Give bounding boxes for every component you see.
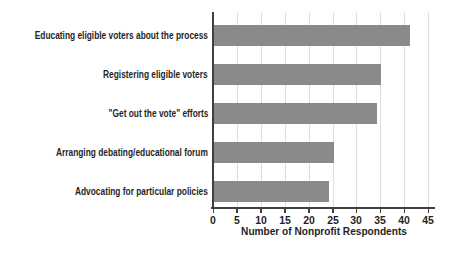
tick-mark — [428, 209, 430, 213]
category-label: Educating eligible voters about the proc… — [35, 28, 208, 42]
tick-mark — [332, 209, 334, 213]
tick-mark — [213, 209, 215, 213]
tick-mark — [356, 209, 358, 213]
bar — [214, 103, 377, 124]
bar — [214, 64, 381, 85]
bar-chart: Educating eligible voters about the proc… — [0, 0, 449, 256]
tick-mark — [236, 209, 238, 213]
tick-label: 0 — [203, 214, 224, 226]
tick-mark — [260, 209, 262, 213]
tick-mark — [284, 209, 286, 213]
tick-mark — [308, 209, 310, 213]
gridline — [428, 12, 429, 207]
category-label: Registering eligible voters — [103, 67, 208, 81]
tick-mark — [404, 209, 406, 213]
bar — [214, 142, 334, 163]
bar — [214, 181, 329, 202]
x-axis-title: Number of Nonprofit Respondents — [222, 225, 426, 237]
y-axis-line — [212, 12, 214, 209]
category-label: Advocating for particular policies — [75, 184, 208, 198]
tick-mark — [380, 209, 382, 213]
category-label: "Get out the vote" efforts — [108, 106, 208, 120]
bar — [214, 25, 410, 46]
x-axis-line — [211, 207, 435, 209]
category-label: Arranging debating/educational forum — [56, 145, 208, 159]
